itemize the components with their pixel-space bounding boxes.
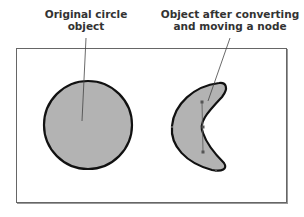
node-point-left <box>171 126 173 128</box>
node-point[interactable] <box>202 126 205 129</box>
node-point-bottom <box>215 170 217 172</box>
diagram-canvas <box>0 0 304 217</box>
handle-point-bottom[interactable] <box>202 151 205 154</box>
original-circle-shape[interactable] <box>44 81 132 169</box>
handle-point-top[interactable] <box>201 101 204 104</box>
